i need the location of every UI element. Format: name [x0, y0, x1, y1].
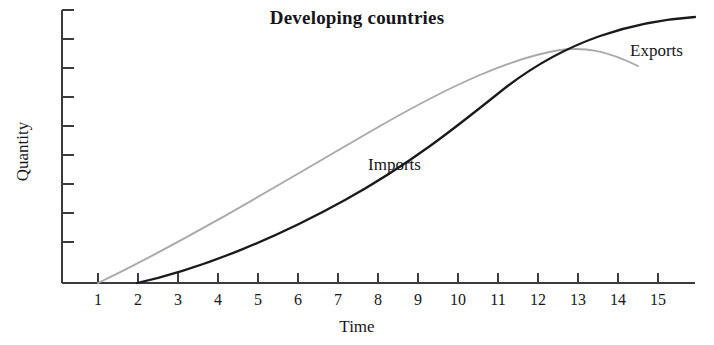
series-line-imports [137, 17, 695, 283]
y-axis-title: Quantity [14, 107, 31, 197]
chart-figure: Developing countries Quantity Time Impor… [0, 0, 714, 345]
x-tick-label: 7 [323, 291, 353, 309]
x-tick-label: 6 [283, 291, 313, 309]
x-tick-label: 2 [123, 291, 153, 309]
y-axis-ticks [62, 10, 74, 242]
x-tick-label: 3 [163, 291, 193, 309]
x-tick-label: 1 [83, 291, 113, 309]
x-tick-label: 4 [203, 291, 233, 309]
x-tick-label: 10 [443, 291, 473, 309]
x-tick-label: 5 [243, 291, 273, 309]
x-tick-label: 12 [523, 291, 553, 309]
x-tick-label: 8 [363, 291, 393, 309]
series-label-imports: Imports [368, 156, 421, 173]
x-tick-label: 13 [563, 291, 593, 309]
x-tick-label: 15 [643, 291, 673, 309]
x-axis-ticks [98, 273, 658, 283]
x-tick-label: 14 [603, 291, 633, 309]
x-tick-label: 9 [403, 291, 433, 309]
x-axis-title: Time [0, 318, 714, 335]
x-tick-label: 11 [483, 291, 513, 309]
page-title: Developing countries [0, 8, 714, 27]
series-label-exports: Exports [630, 42, 683, 59]
